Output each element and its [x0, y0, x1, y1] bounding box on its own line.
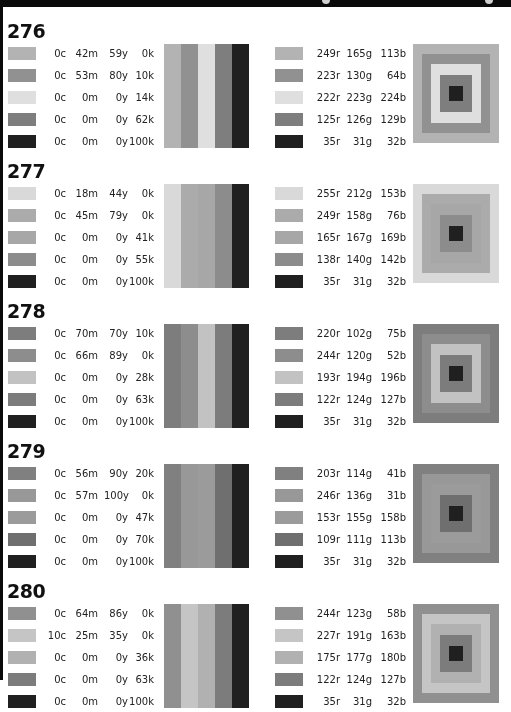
color-row: 0c0m0y100k35r31g32b [0, 695, 511, 709]
cmyk-c-value: 0c [46, 467, 66, 480]
color-row: 0c0m0y36k175r177g180b [0, 651, 511, 665]
cmyk-y-value: 100y [104, 489, 128, 502]
cmyk-m-value: 0m [72, 113, 98, 126]
rgb-swatch [275, 467, 303, 480]
cmyk-y-value: 70y [104, 327, 128, 340]
cmyk-m-value: 66m [72, 349, 98, 362]
cmyk-c-value: 0c [46, 209, 66, 222]
cmyk-m-value: 0m [72, 253, 98, 266]
rgb-g-value: 158g [342, 209, 372, 222]
cmyk-swatch [8, 651, 36, 664]
rgb-g-value: 140g [342, 253, 372, 266]
color-row: 0c66m89y0k244r120g52b [0, 349, 511, 363]
rgb-r-value: 35r [310, 555, 340, 568]
cmyk-swatch [8, 209, 36, 222]
cmyk-k-value: 20k [128, 467, 154, 480]
color-row: 0c0m0y100k35r31g32b [0, 555, 511, 569]
color-row: 0c0m0y63k122r124g127b [0, 673, 511, 687]
color-row: 0c42m59y0k249r165g113b [0, 47, 511, 61]
rgb-swatch [275, 113, 303, 126]
rgb-b-value: 142b [376, 253, 406, 266]
rgb-r-value: 203r [310, 467, 340, 480]
rgb-r-value: 223r [310, 69, 340, 82]
cmyk-k-value: 0k [128, 489, 154, 502]
rgb-g-value: 126g [342, 113, 372, 126]
cmyk-k-value: 47k [128, 511, 154, 524]
cmyk-k-value: 55k [128, 253, 154, 266]
rgb-b-value: 32b [376, 135, 406, 148]
rgb-r-value: 249r [310, 209, 340, 222]
cmyk-m-value: 0m [72, 511, 98, 524]
rgb-swatch [275, 533, 303, 546]
cmyk-swatch [8, 371, 36, 384]
rgb-g-value: 120g [342, 349, 372, 362]
rgb-b-value: 113b [376, 47, 406, 60]
color-row: 0c0m0y55k138r140g142b [0, 253, 511, 267]
rgb-b-value: 32b [376, 695, 406, 708]
rgb-g-value: 130g [342, 69, 372, 82]
color-row: 10c25m35y0k227r191g163b [0, 629, 511, 643]
cmyk-c-value: 0c [46, 511, 66, 524]
cmyk-y-value: 35y [104, 629, 128, 642]
cmyk-k-value: 10k [128, 69, 154, 82]
rgb-swatch [275, 47, 303, 60]
rgb-swatch [275, 253, 303, 266]
rgb-r-value: 246r [310, 489, 340, 502]
cmyk-m-value: 0m [72, 533, 98, 546]
color-row: 0c0m0y100k35r31g32b [0, 135, 511, 149]
cmyk-y-value: 79y [104, 209, 128, 222]
rgb-swatch [275, 555, 303, 568]
color-row: 0c0m0y100k35r31g32b [0, 415, 511, 429]
rgb-r-value: 35r [310, 415, 340, 428]
rgb-g-value: 111g [342, 533, 372, 546]
rgb-swatch [275, 695, 303, 708]
rgb-swatch [275, 629, 303, 642]
rgb-swatch [275, 393, 303, 406]
cmyk-c-value: 0c [46, 371, 66, 384]
cmyk-y-value: 0y [104, 371, 128, 384]
rgb-swatch [275, 187, 303, 200]
rgb-g-value: 136g [342, 489, 372, 502]
rgb-r-value: 193r [310, 371, 340, 384]
rgb-g-value: 31g [342, 275, 372, 288]
rgb-r-value: 125r [310, 113, 340, 126]
cmyk-y-value: 0y [104, 135, 128, 148]
palette-number: 279 [7, 440, 45, 462]
cmyk-y-value: 0y [104, 695, 128, 708]
cmyk-y-value: 0y [104, 231, 128, 244]
rgb-r-value: 249r [310, 47, 340, 60]
rgb-g-value: 114g [342, 467, 372, 480]
rgb-g-value: 31g [342, 695, 372, 708]
cmyk-y-value: 0y [104, 253, 128, 266]
cmyk-m-value: 42m [72, 47, 98, 60]
rgb-r-value: 244r [310, 607, 340, 620]
cmyk-k-value: 28k [128, 371, 154, 384]
rgb-r-value: 255r [310, 187, 340, 200]
cmyk-y-value: 0y [104, 275, 128, 288]
palette-section: 280 0c64m86y0k244r123g58b10c25m35y0k227r… [0, 580, 511, 712]
cmyk-m-value: 0m [72, 555, 98, 568]
cmyk-k-value: 0k [128, 209, 154, 222]
cmyk-m-value: 0m [72, 275, 98, 288]
rgb-swatch [275, 135, 303, 148]
rgb-b-value: 32b [376, 275, 406, 288]
cmyk-swatch [8, 511, 36, 524]
rgb-g-value: 124g [342, 673, 372, 686]
cmyk-c-value: 0c [46, 91, 66, 104]
rgb-g-value: 102g [342, 327, 372, 340]
cmyk-y-value: 0y [104, 555, 128, 568]
cmyk-m-value: 56m [72, 467, 98, 480]
rgb-r-value: 138r [310, 253, 340, 266]
cmyk-swatch [8, 253, 36, 266]
cmyk-swatch [8, 47, 36, 60]
color-row: 0c0m0y28k193r194g196b [0, 371, 511, 385]
cmyk-k-value: 41k [128, 231, 154, 244]
cmyk-k-value: 0k [128, 187, 154, 200]
rgb-swatch [275, 91, 303, 104]
rgb-g-value: 31g [342, 555, 372, 568]
cmyk-m-value: 57m [72, 489, 98, 502]
rgb-b-value: 129b [376, 113, 406, 126]
cmyk-m-value: 0m [72, 91, 98, 104]
cmyk-m-value: 70m [72, 327, 98, 340]
color-row: 0c0m0y62k125r126g129b [0, 113, 511, 127]
